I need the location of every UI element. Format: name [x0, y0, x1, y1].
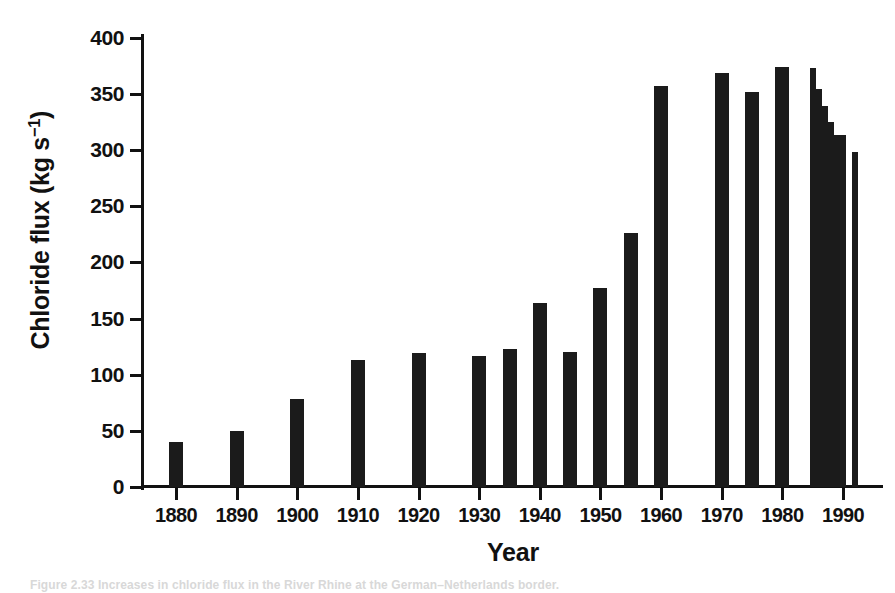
x-axis-tick-label: 1990 [803, 505, 883, 525]
bar [503, 349, 517, 487]
x-axis-tick [478, 488, 481, 500]
x-axis-tick [842, 488, 845, 500]
x-axis-tick [236, 488, 239, 500]
x-axis-tick [418, 488, 421, 500]
bar [624, 233, 638, 487]
x-axis-tick [357, 488, 360, 500]
bar [230, 431, 244, 487]
x-axis-tick [660, 488, 663, 500]
figure-caption: Figure 2.33 Increases in chloride flux i… [30, 578, 870, 592]
bar [563, 352, 577, 487]
x-axis-tick [175, 488, 178, 500]
bar [852, 152, 858, 487]
x-axis-tick [296, 488, 299, 500]
bar-series [0, 0, 895, 487]
x-axis-title: Year [143, 538, 883, 567]
bar [593, 288, 607, 487]
bar [775, 67, 789, 487]
bar [351, 360, 365, 487]
x-axis-tick [539, 488, 542, 500]
x-axis-tick [721, 488, 724, 500]
bar [745, 92, 759, 487]
bar [412, 353, 426, 487]
chart-figure: Chloride flux (kg s−1) 40035030025020015… [0, 0, 895, 593]
bar [472, 356, 486, 487]
bar [169, 442, 183, 487]
bar [533, 303, 547, 487]
bar [654, 86, 668, 487]
x-axis-tick [781, 488, 784, 500]
bar [840, 135, 846, 487]
bar [715, 73, 729, 487]
bar [290, 399, 304, 487]
x-axis-tick [599, 488, 602, 500]
